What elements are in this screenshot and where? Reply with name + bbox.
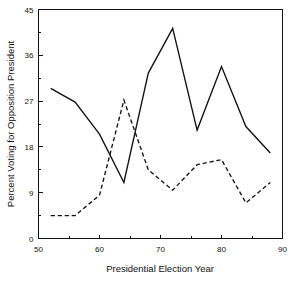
plot-frame xyxy=(39,10,283,239)
y-axis-tick-labels: 0918273645 xyxy=(25,6,34,244)
x-tick-label: 90 xyxy=(278,245,287,254)
x-tick-label: 80 xyxy=(217,245,226,254)
y-tick-label: 18 xyxy=(25,143,34,152)
y-axis-ticks xyxy=(39,10,43,239)
y-tick-label: 9 xyxy=(29,189,34,198)
x-tick-label: 60 xyxy=(95,245,104,254)
x-tick-label: 50 xyxy=(34,245,43,254)
y-tick-label: 45 xyxy=(25,6,34,15)
data-series-solid xyxy=(51,28,271,182)
y-tick-label: 27 xyxy=(25,97,34,106)
data-series-dashed xyxy=(51,100,271,216)
y-axis-title: Percent Voting for Opposition President xyxy=(5,40,16,207)
line-chart: 5060708090 0918273645 Presidential Elect… xyxy=(0,0,299,296)
x-axis-title: Presidential Election Year xyxy=(106,263,214,274)
x-tick-label: 70 xyxy=(156,245,165,254)
x-axis-tick-labels: 5060708090 xyxy=(34,245,287,254)
y-tick-label: 36 xyxy=(25,51,34,60)
y-tick-label: 0 xyxy=(29,235,34,244)
chart-figure: 5060708090 0918273645 Presidential Elect… xyxy=(0,0,299,296)
x-axis-ticks xyxy=(39,235,283,239)
